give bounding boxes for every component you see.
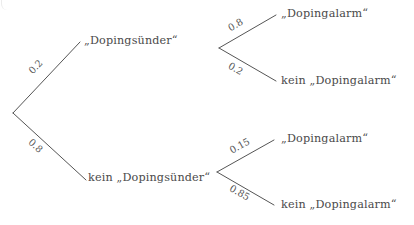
node-label-dopingsuender: „Dopingsünder“: [84, 35, 178, 46]
node-label-kein-alarm-2: kein „Dopingalarm“: [281, 199, 397, 210]
node-label-kein-dopingsuender: kein „Dopingsünder“: [88, 172, 210, 183]
node-label-kein-alarm-1: kein „Dopingalarm“: [281, 75, 397, 86]
branch-root-to-kein-dopingsuender: [13, 113, 86, 180]
node-label-alarm-1: „Dopingalarm“: [281, 8, 368, 19]
probability-tree-diagram: „Dopingsünder“ kein „Dopingsünder“ „Dopi…: [0, 0, 414, 225]
node-label-alarm-2: „Dopingalarm“: [281, 133, 368, 144]
branch-root-to-dopingsuender: [13, 42, 80, 113]
branch-dopingsuender-to-kein-alarm: [219, 48, 276, 81]
branch-dopingsuender-to-alarm: [219, 15, 276, 48]
tree-branches: [0, 0, 414, 225]
